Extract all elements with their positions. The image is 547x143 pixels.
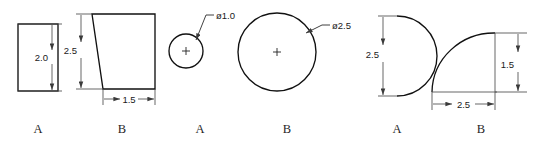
figure-1-group: 2.0 A — [18, 24, 62, 136]
figure-6-group: 2.5 1.5 B — [432, 33, 527, 136]
figure-5-group: 2.5 A — [366, 16, 437, 136]
figure-4-group: ø2.5 B — [238, 13, 351, 136]
quarter-arc-shape — [432, 33, 495, 92]
figure-3-group: ø1.0 A — [169, 10, 235, 137]
figure-6-label: B — [477, 122, 485, 136]
arc-height-dim-text: 1.5 — [501, 59, 514, 70]
triangle-base-dim-text: 1.5 — [122, 94, 135, 105]
semicircle-shape — [397, 16, 437, 96]
small-circle-leader-line — [196, 15, 206, 40]
figure-3-label: A — [195, 122, 204, 136]
triangle-shape — [92, 14, 155, 89]
figure-1-label: A — [33, 122, 42, 136]
arc-width-dim-text: 2.5 — [457, 99, 470, 110]
figure-2-label: B — [118, 122, 126, 136]
triangle-height-dim-text: 2.5 — [64, 45, 77, 56]
figure-4-label: B — [283, 122, 291, 136]
drawing-canvas: 2.0 A 2.5 1.5 B — [0, 0, 547, 143]
semicircle-diameter-dim-text: 2.5 — [366, 49, 379, 60]
technical-drawing-sheet: 2.0 A 2.5 1.5 B — [0, 0, 547, 143]
large-circle-diameter-text: ø2.5 — [332, 20, 351, 31]
figure-5-label: A — [392, 122, 401, 136]
figure-2-group: 2.5 1.5 B — [64, 14, 155, 136]
small-circle-diameter-text: ø1.0 — [216, 10, 235, 21]
rect-height-dim-text: 2.0 — [35, 52, 48, 63]
